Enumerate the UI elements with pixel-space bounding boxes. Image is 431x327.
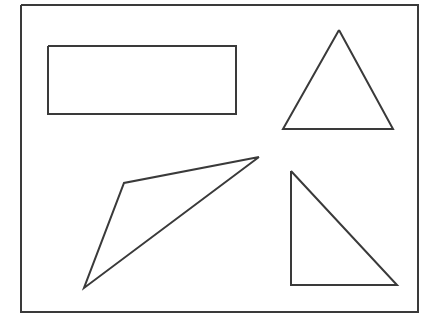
figure-canvas: [0, 0, 431, 327]
rectangle-shape: [48, 46, 236, 114]
right-triangle-shape: [291, 171, 397, 285]
dart-polygon-shape: [84, 157, 259, 288]
outer-border-frame: [21, 5, 418, 312]
isosceles-triangle-shape: [283, 30, 393, 129]
shapes-svg: [0, 0, 431, 327]
